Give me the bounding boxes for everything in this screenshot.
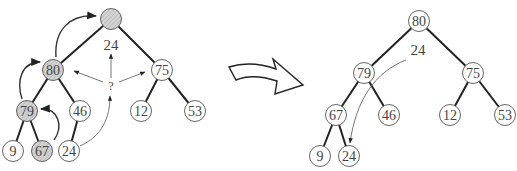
- node-label: 53: [188, 104, 202, 119]
- node-label: 80: [46, 63, 60, 78]
- node-label: 24: [62, 144, 76, 159]
- node-53: 53: [495, 105, 516, 126]
- node-label: 12: [134, 104, 148, 119]
- node-24: 24: [59, 141, 80, 162]
- node-label: 80: [412, 14, 426, 29]
- node-label: 46: [382, 108, 396, 123]
- node-79: 79: [17, 101, 38, 122]
- moving-value-label: 24: [104, 37, 120, 53]
- node-46: 46: [379, 105, 400, 126]
- node-75: 75: [152, 60, 173, 81]
- node-empty-root: [101, 9, 122, 30]
- node-75: 75: [463, 63, 484, 84]
- node-label: 46: [73, 104, 87, 119]
- node-53: 53: [185, 101, 206, 122]
- question-arrow-to-75: [119, 72, 145, 82]
- node-80: 80: [43, 60, 64, 81]
- transition-arrow-icon: [229, 59, 303, 94]
- node-80: 80: [409, 11, 430, 32]
- node-12: 12: [131, 101, 152, 122]
- node-label: 75: [466, 66, 480, 81]
- question-mark: ?: [108, 79, 113, 93]
- node-label: 12: [443, 108, 457, 123]
- node-79: 79: [354, 63, 375, 84]
- heap-diagram: 80 75 79 46 12 53 9 67: [0, 0, 517, 171]
- node-label: 9: [10, 144, 17, 159]
- node-label: 79: [357, 66, 371, 81]
- after-tree: 80 79 75 67 46 12 53 9: [310, 11, 516, 167]
- node-12: 12: [440, 105, 461, 126]
- promote-arrow-67-to-79: [41, 109, 59, 140]
- edge: [53, 19, 111, 70]
- node-46: 46: [70, 101, 91, 122]
- node-label: 67: [35, 144, 49, 159]
- node-label: 67: [329, 108, 343, 123]
- before-tree: 80 75 79 46 12 53 9 67: [3, 9, 206, 162]
- node-label: 75: [155, 63, 169, 78]
- moving-value-label: 24: [411, 42, 427, 58]
- node-67: 67: [326, 105, 347, 126]
- node-9: 9: [310, 146, 331, 167]
- node-9: 9: [3, 141, 24, 162]
- question-arrow-to-80: [74, 71, 103, 82]
- node-label: 24: [342, 149, 356, 164]
- node-24: 24: [339, 146, 360, 167]
- node-67: 67: [32, 141, 53, 162]
- node-label: 53: [498, 108, 512, 123]
- node-label: 9: [317, 149, 324, 164]
- node-label: 79: [20, 104, 34, 119]
- edge: [419, 21, 473, 73]
